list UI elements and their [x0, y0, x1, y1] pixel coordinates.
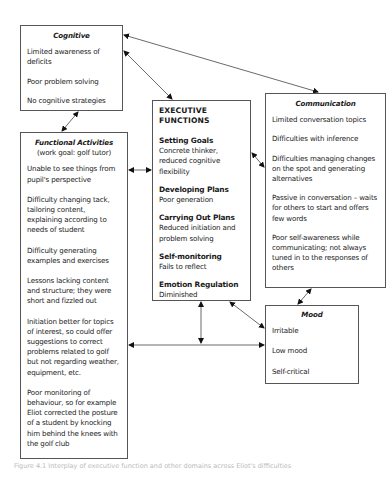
cognitive-title: Cognitive [27, 31, 116, 41]
functional-item: Difficulty changing tack, tailoring cont… [27, 195, 121, 236]
mood-item: Self-critical [272, 367, 352, 377]
arrow-communication-mood [298, 289, 311, 304]
mood-box: Mood Irritable Low mood Self-critical [265, 305, 359, 384]
section-text: Reduced initiation and problem solving [159, 223, 244, 243]
functional-activities-title: Functional Activities [27, 138, 121, 148]
cognitive-box: Cognitive Limited awareness of deficits … [20, 25, 123, 111]
section-heading: Setting Goals [159, 136, 244, 146]
functional-item: Lessons lacking content and structure; t… [27, 276, 121, 307]
section-text: Concrete thinker, reduced cognitive flex… [159, 146, 244, 177]
executive-section-setting-goals: Setting Goals Concrete thinker, reduced … [159, 136, 244, 177]
arrow-executive-communication [252, 153, 264, 167]
section-heading: Self-monitoring [159, 252, 244, 262]
communication-item: Poor self-awareness while communicating;… [272, 233, 379, 274]
communication-item: Difficulties managing changes on the spo… [272, 154, 379, 185]
section-text: Fails to reflect [159, 262, 244, 272]
section-text: Diminished [159, 290, 244, 300]
executive-section-emotion-regulation: Emotion Regulation Diminished [159, 280, 244, 300]
executive-section-developing-plans: Developing Plans Poor generation [159, 185, 244, 205]
functional-item: Initiation better for topics of interest… [27, 317, 121, 378]
cognitive-item: Limited awareness of deficits [27, 47, 116, 67]
cognitive-item: Poor problem solving [27, 77, 116, 87]
section-text: Poor generation [159, 195, 244, 205]
executive-functions-title: EXECUTIVE FUNCTIONS [159, 106, 244, 126]
functional-item: Difficulty generating examples and exerc… [27, 246, 121, 266]
section-heading: Emotion Regulation [159, 280, 244, 290]
figure-caption: Figure 4.1 Interplay of executive functi… [14, 462, 384, 470]
communication-item: Difficulties with inference [272, 134, 379, 144]
arrow-communication-cognitive [124, 35, 318, 92]
arrow-cognitive-executive [124, 51, 172, 99]
mood-item: Low mood [272, 346, 352, 356]
mood-title: Mood [272, 310, 352, 320]
communication-box: Communication Limited conversation topic… [265, 93, 386, 288]
section-heading: Developing Plans [159, 185, 244, 195]
functional-activities-box: Functional Activities (work goal: golf t… [20, 132, 128, 459]
communication-item: Passive in conversation – waits for othe… [272, 193, 379, 224]
functional-activities-subtitle: (work goal: golf tutor) [27, 148, 121, 158]
section-heading: Carrying Out Plans [159, 213, 244, 223]
functional-item: Poor monitoring of behaviour, so for exa… [27, 388, 121, 449]
arrow-cognitive-functional [62, 112, 78, 131]
communication-title: Communication [272, 99, 379, 109]
communication-item: Limited conversation topics [272, 115, 379, 125]
executive-functions-box: EXECUTIVE FUNCTIONS Setting Goals Concre… [152, 100, 251, 301]
functional-item: Unable to see things from pupil's perspe… [27, 164, 121, 184]
mood-item: Irritable [272, 326, 352, 336]
arrow-executive-mood [230, 302, 264, 328]
executive-section-self-monitoring: Self-monitoring Fails to reflect [159, 252, 244, 272]
cognitive-item: No cognitive strategies [27, 96, 116, 106]
executive-section-carrying-out-plans: Carrying Out Plans Reduced initiation an… [159, 213, 244, 244]
